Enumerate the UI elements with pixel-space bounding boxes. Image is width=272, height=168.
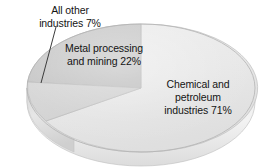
pie-chart: All other industries 7% Metal processing… <box>0 0 272 168</box>
slice-label-metal-processing-and-mining: Metal processing and mining 22% <box>52 42 156 68</box>
slice-label-chemical-and-petroleum-industries: Chemical and petroleum industries 71% <box>148 78 248 118</box>
slice-label-all-other-industries: All other industries 7% <box>14 4 126 30</box>
